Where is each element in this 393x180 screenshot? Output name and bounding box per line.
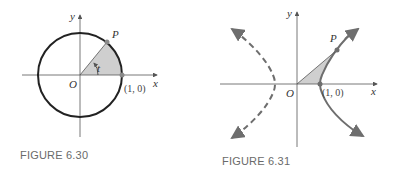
origin-label: O	[69, 78, 77, 90]
figure-6-30: y x O P t (1, 0)	[22, 10, 158, 137]
unit-point-label: (1, 0)	[322, 87, 344, 99]
figure-6-31: y x O P (1, 0)	[220, 7, 377, 147]
x-label: x	[370, 85, 376, 97]
p-label: P	[111, 28, 119, 40]
point-unit	[318, 82, 323, 87]
hyperbola-right-branch	[320, 34, 362, 136]
figure-caption-6-31: FIGURE 6.31	[222, 155, 290, 167]
y-label: y	[286, 7, 292, 19]
hyperbola-left-branch	[234, 30, 275, 137]
point-unit	[120, 73, 125, 78]
figure-caption-6-30: FIGURE 6.30	[20, 149, 88, 161]
y-label: y	[69, 10, 75, 22]
left-arrow-bottom	[232, 134, 238, 138]
p-label: P	[329, 32, 337, 44]
point-p	[335, 48, 340, 53]
unit-point-label: (1, 0)	[124, 83, 146, 95]
origin-label: O	[286, 87, 294, 99]
hyperbola-arrow-top	[345, 29, 358, 39]
point-p	[105, 40, 110, 45]
x-label: x	[152, 77, 158, 89]
circle-sector-shade	[80, 42, 122, 75]
